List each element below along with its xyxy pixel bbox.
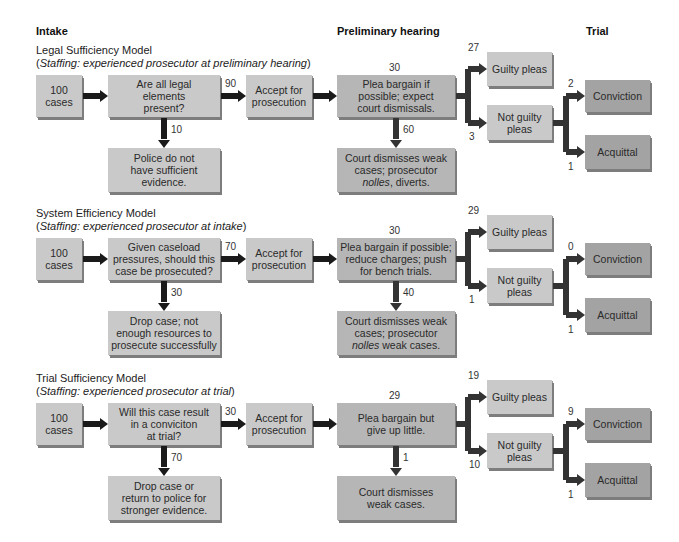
- arrowhead: [577, 474, 585, 486]
- arrowhead: [577, 418, 585, 430]
- arrows-layer: [0, 0, 679, 542]
- arrowhead: [329, 90, 337, 102]
- branch-verdicts: [553, 96, 578, 152]
- arrowhead: [479, 391, 487, 403]
- arrowhead: [158, 140, 170, 148]
- branch-pleas: [456, 232, 480, 286]
- branch-verdicts: [553, 424, 578, 480]
- arrowhead: [238, 418, 246, 430]
- arrowhead: [390, 140, 402, 148]
- arrowhead: [158, 303, 170, 311]
- branch-verdicts: [553, 259, 578, 315]
- arrowhead: [100, 253, 108, 265]
- arrowhead: [577, 253, 585, 265]
- arrowhead: [479, 445, 487, 457]
- arrowhead: [479, 117, 487, 129]
- arrowhead: [577, 309, 585, 321]
- arrowhead: [238, 253, 246, 265]
- branch-pleas: [456, 397, 480, 451]
- arrowhead: [479, 63, 487, 75]
- arrowhead: [390, 468, 402, 476]
- arrowhead: [100, 418, 108, 430]
- branch-pleas: [456, 69, 480, 123]
- arrowhead: [100, 90, 108, 102]
- arrowhead: [329, 253, 337, 265]
- arrowhead: [479, 226, 487, 238]
- arrowhead: [238, 90, 246, 102]
- arrowhead: [390, 303, 402, 311]
- arrowhead: [329, 418, 337, 430]
- arrowhead: [479, 280, 487, 292]
- arrowhead: [577, 90, 585, 102]
- arrowhead: [577, 146, 585, 158]
- arrowhead: [158, 468, 170, 476]
